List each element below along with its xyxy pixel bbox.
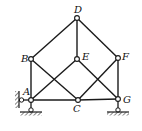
joint-D xyxy=(75,16,80,21)
member-CG xyxy=(78,99,118,100)
joint-label-E: E xyxy=(81,51,90,62)
member-BD xyxy=(31,18,77,59)
ground-hatch-icon xyxy=(107,112,129,116)
joint-label-B: B xyxy=(20,53,28,64)
joint-F xyxy=(116,56,121,61)
wall-hatch-icon xyxy=(15,91,19,108)
joint-E xyxy=(75,57,80,62)
joint-C xyxy=(76,98,81,103)
ground-hatch-icon xyxy=(20,112,42,116)
joint-label-A: A xyxy=(22,86,30,97)
joint-label-F: F xyxy=(121,51,130,62)
joint-label-C: C xyxy=(73,103,81,114)
wall-pin-icon xyxy=(19,98,23,102)
joint-B xyxy=(29,57,34,62)
joint-A xyxy=(29,98,34,103)
joint-label-G: G xyxy=(123,94,131,105)
joint-label-D: D xyxy=(73,4,82,15)
joint-G xyxy=(116,97,121,102)
truss-diagram: DBEFACG xyxy=(0,0,142,131)
